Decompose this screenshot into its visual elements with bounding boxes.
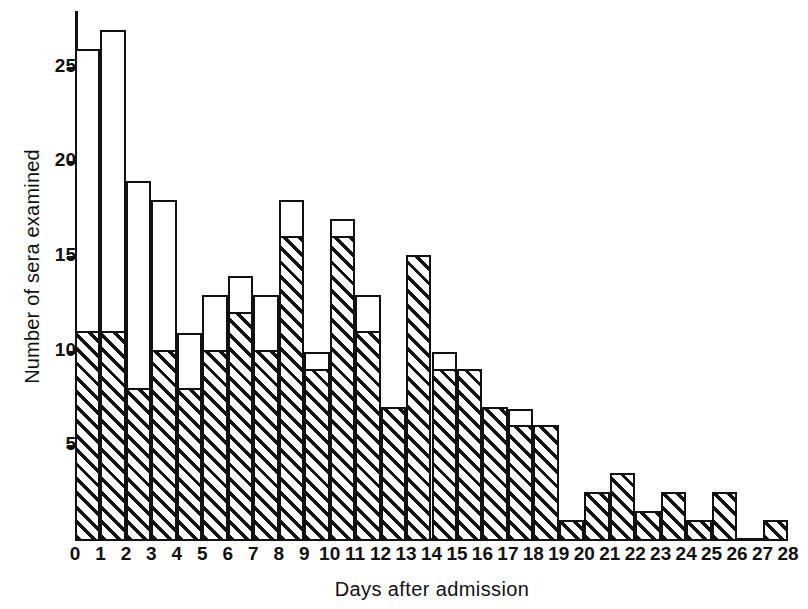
x-axis-title: Days after admission <box>76 578 788 601</box>
x-tick-label: 28 <box>768 543 808 565</box>
x-axis-ticks: 0123456789101112131415161718192021222324… <box>0 0 808 609</box>
chart-figure: Number of sera examined 510152025 012345… <box>0 0 808 609</box>
